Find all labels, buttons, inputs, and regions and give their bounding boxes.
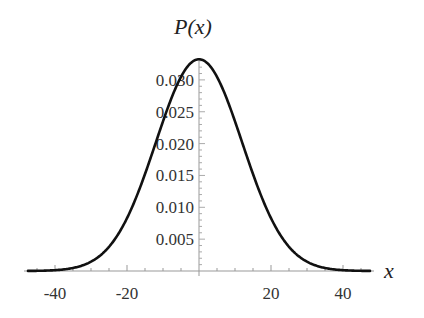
x-tick-label: -40 bbox=[44, 284, 67, 303]
y-tick-label: 0.020 bbox=[156, 135, 194, 154]
x-axis-label: x bbox=[383, 258, 394, 283]
y-axis: 0.0050.0100.0150.0200.0250.030 P(x) bbox=[156, 14, 212, 276]
y-tick-label: 0.025 bbox=[156, 103, 194, 122]
x-axis: -40-202040 x bbox=[24, 258, 394, 303]
y-axis-label: P(x) bbox=[173, 14, 212, 39]
x-tick-label: -20 bbox=[116, 284, 139, 303]
y-tick-label: 0.005 bbox=[156, 230, 194, 249]
y-tick-label: 0.015 bbox=[156, 166, 194, 185]
y-tick-label: 0.010 bbox=[156, 198, 194, 217]
x-tick-label: 40 bbox=[335, 284, 352, 303]
x-tick-label: 20 bbox=[263, 284, 280, 303]
chart: -40-202040 x 0.0050.0100.0150.0200.0250.… bbox=[0, 0, 424, 318]
